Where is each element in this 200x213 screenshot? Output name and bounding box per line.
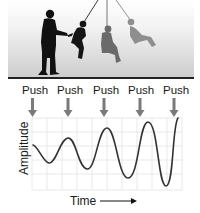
y-axis-label: Amplitude [17, 121, 31, 175]
amplitude-curve [33, 118, 178, 186]
push-labels: Push Push Push Push Push [22, 84, 189, 96]
down-arrow-icon [28, 98, 37, 117]
down-arrow-icon [100, 98, 109, 117]
ground-line [8, 77, 194, 79]
push-label-4: Push [128, 84, 154, 96]
swing-illustration [8, 0, 194, 79]
down-arrow-icon [136, 98, 145, 117]
resonance-diagram: Push Push Push Push Push [0, 0, 200, 213]
push-label-1: Push [22, 84, 48, 96]
right-arrow-icon [100, 198, 137, 204]
push-label-5: Push [163, 84, 189, 96]
down-arrow-icon [64, 98, 73, 117]
down-arrow-icon [170, 98, 179, 117]
x-axis-label: Time [70, 194, 97, 208]
push-label-2: Push [57, 84, 83, 96]
push-label-3: Push [93, 84, 119, 96]
push-arrows [28, 98, 179, 117]
illustration-background [8, 0, 194, 78]
